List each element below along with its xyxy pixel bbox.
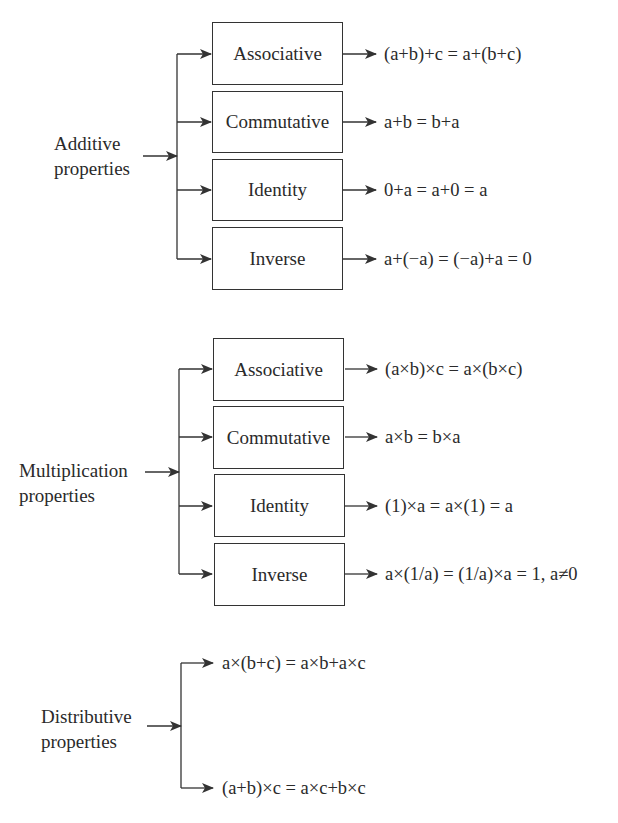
multiplication-commutative-formula: a×b = b×a — [385, 426, 460, 448]
additive-identity-formula: 0+a = a+0 = a — [384, 179, 487, 201]
multiplication-group-label: Multiplication properties — [19, 458, 128, 508]
multiplication-identity-formula: (1)×a = a×(1) = a — [385, 495, 513, 517]
distributive-label-line1: Distributive — [41, 704, 132, 729]
additive-inverse-box: Inverse — [212, 227, 343, 290]
additive-group-label: Additive properties — [54, 131, 130, 181]
multiplication-identity-box: Identity — [214, 474, 345, 537]
multiplication-associative-formula: (a×b)×c = a×(b×c) — [385, 358, 522, 380]
multiplication-label-line1: Multiplication — [19, 458, 128, 483]
additive-inverse-formula: a+(−a) = (−a)+a = 0 — [384, 248, 532, 270]
additive-associative-box: Associative — [212, 22, 343, 85]
additive-identity-box: Identity — [212, 159, 343, 221]
additive-commutative-formula: a+b = b+a — [384, 111, 459, 133]
multiplication-label-line2: properties — [19, 483, 128, 508]
distributive-label-line2: properties — [41, 729, 132, 754]
additive-commutative-box: Commutative — [212, 91, 343, 153]
multiplication-commutative-box: Commutative — [213, 406, 344, 469]
multiplication-inverse-box: Inverse — [214, 543, 345, 606]
additive-label-line2: properties — [54, 156, 130, 181]
distributive-group-label: Distributive properties — [41, 704, 132, 754]
additive-associative-formula: (a+b)+c = a+(b+c) — [384, 43, 521, 65]
distributive-right-formula: (a+b)×c = a×c+b×c — [222, 777, 366, 799]
multiplication-associative-box: Associative — [213, 338, 344, 401]
additive-label-line1: Additive — [54, 131, 130, 156]
distributive-left-formula: a×(b+c) = a×b+a×c — [222, 652, 366, 674]
multiplication-inverse-formula: a×(1/a) = (1/a)×a = 1, a≠0 — [385, 563, 578, 585]
